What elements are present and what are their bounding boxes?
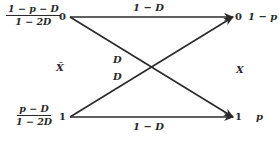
edge-label-0-to-1: D	[113, 55, 122, 65]
input-prob-1: p − D 1 − 2D	[16, 104, 52, 127]
output-prob-1: p	[256, 112, 263, 122]
input-variable-label: X̂	[56, 63, 64, 73]
edge-label-0-to-0: 1 − D	[133, 3, 164, 13]
edge-label-1-to-0: D	[113, 72, 122, 82]
output-node-1: 1	[235, 112, 242, 122]
input-prob-0-denominator: 1 − 2D	[15, 16, 51, 27]
input-node-1: 1	[59, 112, 66, 122]
output-variable-label: X	[236, 65, 244, 75]
input-node-0: 0	[59, 12, 66, 22]
input-prob-0: 1 − p − D 1 − 2D	[6, 4, 61, 27]
output-prob-0: 1 − p	[248, 12, 277, 22]
input-prob-1-denominator: 1 − 2D	[16, 116, 52, 127]
output-node-0: 0	[235, 12, 242, 22]
edge-label-1-to-1: 1 − D	[133, 122, 164, 132]
input-prob-0-numerator: 1 − p − D	[6, 4, 61, 16]
input-prob-1-numerator: p − D	[17, 104, 50, 116]
